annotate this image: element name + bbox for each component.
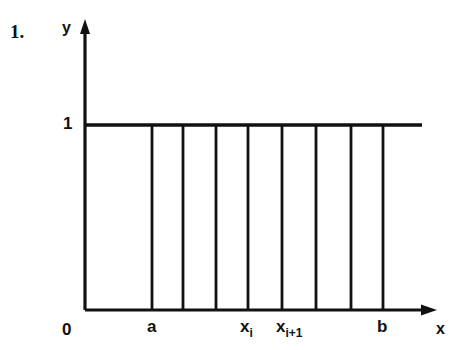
x-axis-label: x [436, 321, 445, 337]
problem-number-label: 1. [10, 22, 24, 41]
y-axis-arrow-icon [80, 19, 90, 34]
x-axis-tick-label-xi: xi [240, 318, 253, 335]
x-axis-tick-label-a: a [147, 318, 156, 335]
y-axis [80, 19, 90, 310]
x-axis-arrow-icon [421, 305, 437, 316]
figure-canvas [0, 0, 455, 350]
y-axis-tick-label-1: 1 [63, 115, 72, 132]
xi-subscript: i [249, 326, 252, 340]
xi1-subscript: i+1 [285, 326, 302, 340]
x-axis-tick-label-b: b [377, 318, 387, 335]
riemann-sum-figure: 1. y x 0 1 a xi xi+1 b [0, 0, 455, 350]
partition-lines [152, 125, 383, 310]
x-axis-tick-label-xi-plus-1: xi+1 [276, 318, 302, 335]
y-axis-label: y [62, 20, 71, 36]
origin-label: 0 [62, 321, 71, 338]
